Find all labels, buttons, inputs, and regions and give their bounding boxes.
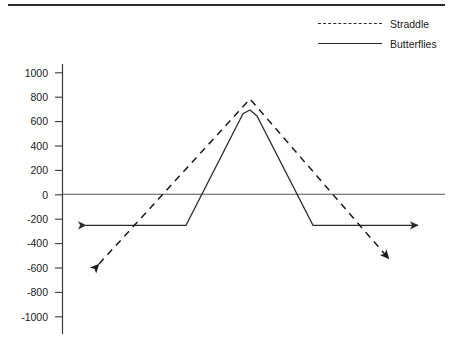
y-tick-label-800: 800	[2, 92, 48, 103]
y-tick-label-200: 200	[2, 165, 48, 176]
y-tick-label-600: 600	[2, 116, 48, 127]
y-tick-label-n800: -800	[2, 287, 48, 298]
y-tick-label-400: 400	[2, 141, 48, 152]
series-line-straddle	[99, 99, 389, 264]
y-tick-label-n200: -200	[2, 214, 48, 225]
y-tick-label-n600: -600	[2, 263, 48, 274]
y-tick-label-n400: -400	[2, 238, 48, 249]
y-tick-label-n1000: -1000	[2, 312, 48, 323]
y-tick-label-1000: 1000	[2, 68, 48, 79]
y-tick-label-0: 0	[2, 190, 48, 201]
figure: Straddle Butterflies	[0, 0, 453, 354]
y-axis-ticks	[55, 73, 63, 317]
series-line-butterflies	[86, 110, 418, 225]
plot-area	[0, 0, 453, 354]
